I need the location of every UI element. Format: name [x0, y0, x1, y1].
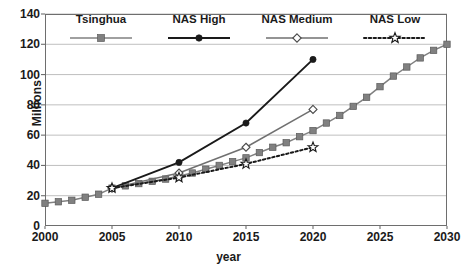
- data-point-marker: [308, 142, 318, 151]
- legend-label: NAS Low: [346, 14, 444, 26]
- data-series-layer: [45, 14, 447, 226]
- data-point-marker: [216, 162, 222, 168]
- data-point-marker: [242, 143, 250, 151]
- data-point-marker: [309, 105, 317, 113]
- data-point-marker: [283, 140, 289, 146]
- data-point-marker: [82, 194, 88, 200]
- data-point-marker: [323, 120, 329, 126]
- data-point-marker: [270, 144, 276, 150]
- x-axis-tick-label: 2030: [417, 231, 465, 243]
- data-point-marker: [176, 159, 182, 165]
- x-axis-tick-label: 2020: [283, 231, 343, 243]
- data-point-marker: [42, 200, 48, 206]
- data-point-marker: [377, 83, 383, 89]
- data-point-marker: [256, 149, 262, 155]
- data-point-marker: [417, 55, 423, 61]
- data-point-marker: [243, 120, 249, 126]
- legend-swatch: [52, 32, 150, 44]
- legend-label: Tsinghua: [52, 14, 150, 26]
- data-point-marker: [350, 103, 356, 109]
- data-point-marker: [296, 133, 302, 139]
- data-point-marker: [390, 73, 396, 79]
- legend-item[interactable]: Tsinghua: [52, 14, 150, 44]
- data-point-marker: [95, 191, 101, 197]
- legend-label: NAS Medium: [248, 14, 346, 26]
- data-point-marker: [310, 127, 316, 133]
- x-axis-tick-label: 2000: [15, 231, 75, 243]
- data-point-marker: [444, 41, 450, 47]
- plot-area: [45, 14, 447, 226]
- data-point-marker: [337, 112, 343, 118]
- data-point-marker: [430, 47, 436, 53]
- data-point-marker: [229, 158, 235, 164]
- series-line: [112, 59, 313, 188]
- y-axis-tick-label: 40: [2, 159, 40, 171]
- y-axis-tick-label: 140: [2, 8, 40, 20]
- legend-label: NAS High: [150, 14, 248, 26]
- y-axis-tick-label: 20: [2, 190, 40, 202]
- x-axis-tick-label: 2015: [216, 231, 276, 243]
- legend-item[interactable]: NAS High: [150, 14, 248, 44]
- x-axis-title: year: [0, 250, 457, 264]
- chart-legend: TsinghuaNAS HighNAS MediumNAS Low: [52, 14, 444, 44]
- legend-swatch: [346, 32, 444, 44]
- data-point-marker: [404, 64, 410, 70]
- data-point-marker: [55, 199, 61, 205]
- legend-swatch: [150, 32, 248, 44]
- data-point-marker: [310, 56, 316, 62]
- legend-item[interactable]: NAS Low: [346, 14, 444, 44]
- y-axis-tick-label: 120: [2, 38, 40, 50]
- legend-swatch: [248, 32, 346, 44]
- x-axis-tick-label: 2010: [149, 231, 209, 243]
- data-point-marker: [69, 197, 75, 203]
- x-axis-tick-label: 2025: [350, 231, 410, 243]
- x-axis-tick-label: 2005: [82, 231, 142, 243]
- data-point-marker: [363, 94, 369, 100]
- legend-item[interactable]: NAS Medium: [248, 14, 346, 44]
